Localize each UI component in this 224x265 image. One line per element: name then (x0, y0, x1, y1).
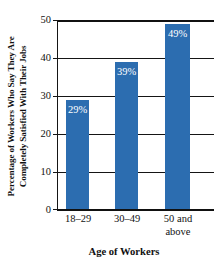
bar-value-18-29: 29% (66, 104, 89, 115)
bars-layer: 29% 39% 49% (57, 20, 214, 210)
bar-50-and-above[interactable]: 49% (165, 24, 190, 210)
y-tick-label-30: 30 (30, 91, 51, 102)
bar-30-49[interactable]: 39% (115, 62, 138, 210)
category-label-18-29-line-1: 18–29 (65, 213, 91, 224)
bar-18-29[interactable]: 29% (66, 100, 89, 210)
x-axis-category-labels: 18–29 30–49 50 and above (57, 213, 214, 245)
plot-area: 29% 39% 49% (57, 20, 214, 210)
x-axis-baseline (57, 209, 214, 211)
category-label-50-and-above-line-2: above (149, 226, 207, 239)
category-label-50-and-above: 50 and above (149, 213, 207, 238)
y-axis-title-line-1: Percentage of Workers Who Say They Are (5, 36, 17, 196)
y-axis-tick-labels: 50 40 30 20 10 0 (30, 0, 51, 265)
y-tick-label-50: 50 (30, 15, 51, 26)
y-tick-label-0: 0 (30, 205, 51, 216)
y-axis-title: Percentage of Workers Who Say They Are C… (0, 0, 34, 232)
y-axis-line (57, 20, 58, 210)
y-tick-label-20: 20 (30, 129, 51, 140)
category-label-30-49: 30–49 (98, 213, 156, 226)
bar-value-30-49: 39% (115, 66, 138, 77)
category-label-30-49-line-1: 30–49 (114, 213, 140, 224)
bar-chart-figure: Percentage of Workers Who Say They Are C… (0, 0, 224, 265)
bar-value-50-and-above: 49% (165, 28, 190, 39)
category-label-50-and-above-line-1: 50 and (164, 213, 192, 224)
x-axis-title: Age of Workers (34, 246, 214, 258)
y-axis-title-line-2: Completely Satisfied With Their Jobs (17, 36, 29, 196)
y-tick-label-10: 10 (30, 167, 51, 178)
y-tick-label-40: 40 (30, 53, 51, 64)
